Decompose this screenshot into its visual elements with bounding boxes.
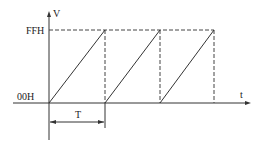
ramp-1 [49, 30, 105, 103]
sawtooth-diagram [0, 0, 263, 148]
period-arrow-left-icon [50, 120, 56, 124]
y-axis-label: V [53, 9, 60, 19]
x-axis-label: t [240, 90, 243, 100]
ffh-label: FFH [26, 26, 44, 36]
x-axis-arrow-icon [245, 101, 251, 105]
ramp-2 [105, 30, 160, 103]
00h-label: 00H [17, 92, 34, 102]
y-axis-arrow-icon [47, 11, 51, 17]
period-label: T [75, 110, 81, 120]
period-arrow-right-icon [98, 120, 104, 124]
ramp-3 [160, 30, 214, 103]
